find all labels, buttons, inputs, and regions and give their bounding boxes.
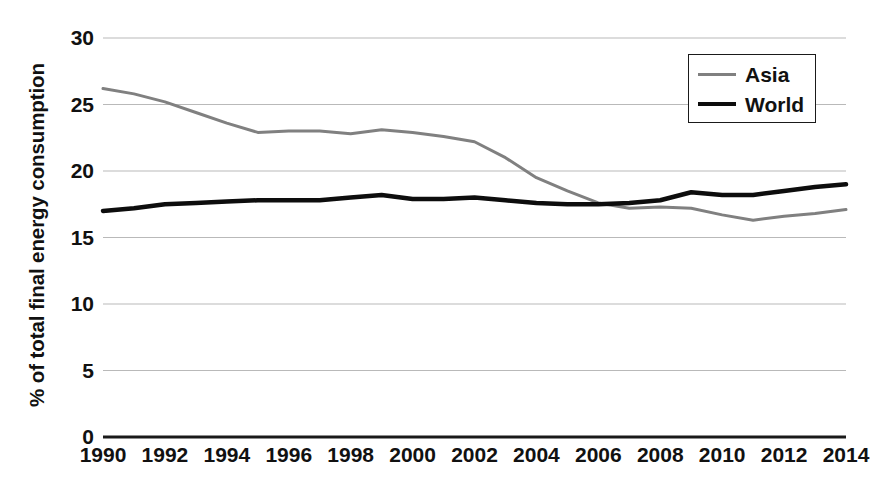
chart-legend: Asia World <box>688 54 816 123</box>
chart-figure: % of total final energy consumption 0510… <box>0 0 881 501</box>
x-tick-label: 1990 <box>68 444 138 465</box>
x-axis-tick-labels: 1990199219941996199820002002200420062008… <box>0 444 881 478</box>
legend-item-asia: Asia <box>689 59 815 89</box>
y-tick-label: 5 <box>48 360 94 381</box>
y-axis-tick-labels: 051015202530 <box>42 0 94 501</box>
x-tick-label: 2014 <box>811 444 881 465</box>
series-line-world <box>103 184 846 211</box>
x-tick-label: 2012 <box>749 444 819 465</box>
legend-line-swatch-asia <box>698 73 736 76</box>
x-tick-label: 1996 <box>254 444 324 465</box>
legend-item-world: World <box>689 89 815 119</box>
legend-line-swatch-world <box>698 102 736 106</box>
legend-label-asia: Asia <box>745 64 789 85</box>
y-tick-label: 25 <box>48 94 94 115</box>
x-tick-label: 2004 <box>501 444 571 465</box>
x-tick-label: 1992 <box>130 444 200 465</box>
x-tick-label: 1998 <box>316 444 386 465</box>
x-tick-label: 2010 <box>687 444 757 465</box>
x-tick-label: 2000 <box>378 444 448 465</box>
x-tick-label: 2008 <box>625 444 695 465</box>
x-tick-label: 1994 <box>192 444 262 465</box>
x-tick-label: 2002 <box>440 444 510 465</box>
x-tick-label: 2006 <box>563 444 633 465</box>
y-tick-label: 10 <box>48 293 94 314</box>
y-tick-label: 20 <box>48 160 94 181</box>
y-tick-label: 15 <box>48 227 94 248</box>
legend-label-world: World <box>745 94 804 115</box>
y-tick-label: 30 <box>48 27 94 48</box>
